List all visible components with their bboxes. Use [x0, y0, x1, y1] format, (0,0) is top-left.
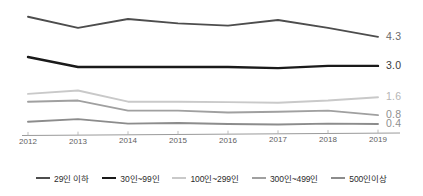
x-axis-tick-label: 2015: [169, 136, 187, 145]
legend-swatch-line-icon: [331, 177, 345, 179]
legend-label: 300인~499인: [270, 172, 318, 184]
series-line: [28, 17, 378, 37]
legend-item[interactable]: 100인~299인: [172, 172, 238, 184]
x-axis-tick-label: 2016: [219, 136, 237, 145]
x-axis-tick-label: 2013: [69, 137, 87, 146]
series-end-value-label: 0.4: [386, 117, 401, 129]
x-axis-tick-label: 2012: [19, 137, 37, 146]
legend-item[interactable]: 500인이상: [331, 172, 387, 184]
x-axis-tick-label: 2017: [269, 135, 287, 144]
legend-swatch-line-icon: [36, 177, 50, 179]
series-line: [28, 57, 378, 68]
legend-label: 100인~299인: [190, 172, 238, 184]
legend-swatch-line-icon: [252, 177, 266, 179]
series-end-value-label: 3.0: [386, 59, 401, 71]
legend-item[interactable]: 300인~499인: [252, 172, 318, 184]
series-line: [28, 119, 378, 124]
legend-swatch-line-icon: [102, 177, 116, 179]
chart-legend: 29인 이하30인~99인100인~299인300인~499인500인이상: [0, 167, 423, 189]
legend-item[interactable]: 30인~99인: [102, 172, 159, 184]
series-end-value-label: 4.3: [386, 30, 401, 42]
x-axis-tick-label: 2019: [369, 135, 387, 144]
chart-svg: [0, 0, 423, 152]
legend-swatch-line-icon: [172, 177, 186, 179]
series-lines: [28, 17, 378, 125]
x-axis-tick-label: 2018: [319, 135, 337, 144]
legend-label: 500인이상: [349, 172, 387, 184]
plot-area: [0, 0, 423, 152]
legend-label: 30인~99인: [120, 172, 159, 184]
line-chart: 4.33.01.60.80.4 201220132014201520162017…: [0, 0, 423, 196]
legend-label: 29인 이하: [54, 172, 89, 184]
x-axis-tick-label: 2014: [119, 136, 137, 145]
series-end-value-label: 1.6: [386, 90, 401, 102]
legend-item[interactable]: 29인 이하: [36, 172, 89, 184]
x-axis-line: [22, 133, 400, 136]
